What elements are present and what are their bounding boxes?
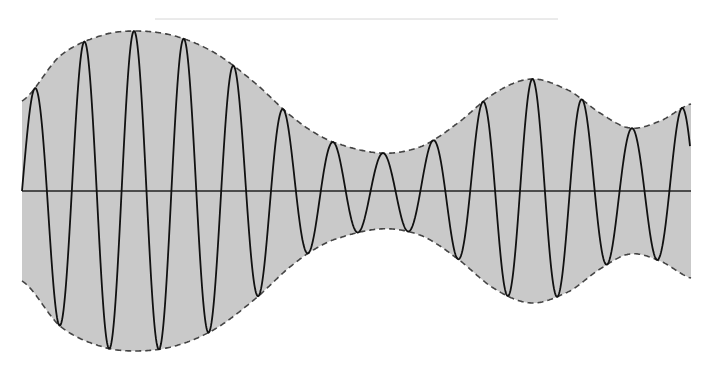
am-waveform-diagram [0, 0, 717, 375]
waveform-figure [0, 0, 717, 375]
